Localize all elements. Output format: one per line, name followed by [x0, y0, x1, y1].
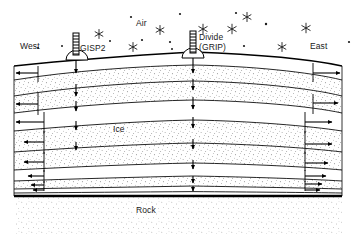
label-gisp2: GISP2 [80, 44, 106, 54]
snowflake-dot [179, 13, 181, 15]
snowflake-dot [61, 45, 63, 47]
snowflake-dot [348, 41, 350, 43]
gisp2-derrick-icon [73, 33, 79, 55]
snowflake-dot [171, 48, 173, 50]
ice-sheet-cross-section-svg [0, 0, 356, 236]
snowflake-dot [265, 23, 267, 25]
grip-derrick-icon [190, 31, 196, 53]
label-west: West [20, 42, 40, 52]
snowflake-dot [243, 45, 245, 47]
snowflake-dot [235, 12, 237, 14]
snowflake-dot [109, 40, 111, 42]
snowflake-dot [130, 16, 132, 18]
label-east: East [310, 42, 327, 52]
figure-canvas: West East Air Ice Rock GISP2 Divide (GRI… [0, 0, 356, 236]
label-divide-line2: (GRIP) [199, 43, 226, 53]
label-air: Air [136, 19, 147, 29]
label-rock: Rock [136, 206, 156, 216]
label-ice: Ice [113, 125, 125, 135]
rock-region [14, 196, 342, 234]
snowflake-dot [141, 39, 143, 41]
snowflake-dot [169, 41, 171, 43]
